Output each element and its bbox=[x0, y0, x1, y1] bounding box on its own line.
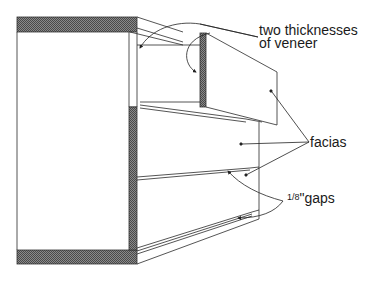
gap-arrow-top bbox=[228, 171, 283, 201]
facia-leader-bottom bbox=[246, 142, 309, 175]
bottom-drawer-facia bbox=[137, 205, 259, 264]
gap-arrow-bottom bbox=[238, 201, 283, 218]
cabinet-side-panel bbox=[17, 17, 137, 264]
gap-unit-text: "gaps bbox=[300, 190, 335, 206]
veneer-arrow-left bbox=[140, 23, 258, 48]
gap-fraction: 1/8 bbox=[287, 192, 300, 202]
facia-leader-mid bbox=[242, 142, 309, 144]
carcase-top-lines bbox=[130, 17, 200, 45]
annotation-leaders bbox=[140, 23, 309, 218]
top-drawer-facia bbox=[140, 33, 277, 125]
label-facias: facias bbox=[310, 136, 347, 149]
label-gaps: 1/8"gaps bbox=[287, 191, 335, 205]
top-panel-edge bbox=[17, 17, 137, 32]
veneer-strip-top bbox=[200, 33, 206, 107]
veneer-arrow-right bbox=[187, 33, 210, 72]
label-veneer-line2: of veneer bbox=[259, 37, 358, 50]
side-veneer-strip bbox=[129, 107, 137, 250]
bottom-panel-edge bbox=[17, 250, 137, 264]
middle-drawer-facia bbox=[137, 122, 259, 205]
facia-leader-top bbox=[272, 92, 309, 142]
label-two-thicknesses-of-veneer: two thicknesses of veneer bbox=[259, 24, 358, 50]
